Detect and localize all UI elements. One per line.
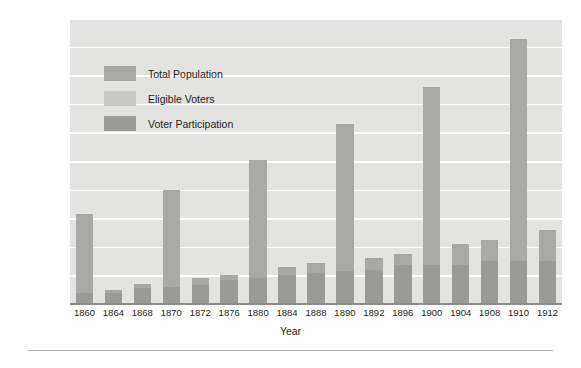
bar-1860 — [76, 214, 93, 304]
bar-1890 — [336, 124, 353, 304]
legend-label: Voter Participation — [148, 118, 233, 130]
legend-item: Voter Participation — [104, 116, 233, 131]
x-axis-line — [70, 303, 562, 305]
x-tick-label: 1888 — [305, 307, 326, 318]
bar-segment-total-population — [249, 160, 266, 279]
bar-1876 — [220, 275, 237, 304]
x-tick-label: 1896 — [392, 307, 413, 318]
bar-1908 — [481, 240, 498, 304]
bar-1892 — [365, 258, 382, 304]
bar-segment-total-population — [365, 258, 382, 269]
bar-segment-voter-participation — [163, 287, 180, 304]
gridline — [70, 47, 562, 49]
bar-segment-total-population — [423, 87, 440, 266]
x-tick-label: 1870 — [161, 307, 182, 318]
plot-area: Total Population Eligible Voters Voter P… — [70, 18, 562, 304]
x-axis-title: Year — [0, 325, 581, 337]
gridline — [70, 161, 562, 163]
bar-segment-voter-participation — [192, 285, 209, 304]
bar-segment-voter-participation — [452, 265, 469, 304]
bar-1904 — [452, 244, 469, 304]
x-tick-label: 1880 — [248, 307, 269, 318]
bar-1912 — [539, 230, 556, 304]
bar-segment-voter-participation — [336, 271, 353, 304]
bar-segment-voter-participation — [365, 270, 382, 304]
bar-1872 — [192, 278, 209, 304]
bar-1900 — [423, 87, 440, 304]
x-tick-label: 1910 — [508, 307, 529, 318]
bar-segment-voter-participation — [278, 275, 295, 304]
bar-segment-total-population — [278, 267, 295, 276]
bar-1870 — [163, 190, 180, 304]
bar-segment-voter-participation — [307, 273, 324, 304]
bar-1880 — [249, 160, 266, 304]
x-tick-label: 1904 — [450, 307, 471, 318]
bar-segment-total-population — [481, 240, 498, 261]
chart-legend: Total Population Eligible Voters Voter P… — [104, 66, 233, 141]
x-tick-label: 1900 — [421, 307, 442, 318]
x-tick-label: 1868 — [132, 307, 153, 318]
bar-1868 — [134, 284, 151, 304]
voter-participation-chart: Number of People (Millions) Total Popula… — [0, 0, 581, 368]
bar-segment-total-population — [76, 214, 93, 293]
x-tick-label: 1876 — [219, 307, 240, 318]
bar-1888 — [307, 263, 324, 304]
legend-swatch-total-population — [104, 66, 136, 81]
bar-segment-voter-participation — [510, 261, 527, 304]
gridline — [70, 190, 562, 192]
x-tick-label: 1892 — [363, 307, 384, 318]
bar-segment-total-population — [336, 124, 353, 271]
bar-segment-voter-participation — [423, 265, 440, 304]
bar-1864 — [105, 290, 122, 304]
x-tick-label: 1864 — [103, 307, 124, 318]
x-tick-label: 1912 — [537, 307, 558, 318]
legend-label: Eligible Voters — [148, 93, 215, 105]
legend-item: Eligible Voters — [104, 91, 233, 106]
bar-segment-total-population — [307, 263, 324, 273]
footer-rule — [28, 350, 553, 351]
gridline — [70, 218, 562, 220]
bar-segment-voter-participation — [134, 288, 151, 304]
bar-segment-voter-participation — [539, 261, 556, 304]
bar-segment-voter-participation — [220, 280, 237, 304]
gridline — [70, 18, 562, 20]
x-tick-label: 1884 — [276, 307, 297, 318]
legend-swatch-voter-participation — [104, 116, 136, 131]
x-tick-label: 1890 — [334, 307, 355, 318]
x-tick-label: 1872 — [190, 307, 211, 318]
bar-segment-total-population — [163, 190, 180, 287]
bar-1896 — [394, 254, 411, 304]
bar-segment-total-population — [452, 244, 469, 265]
bar-segment-voter-participation — [481, 261, 498, 304]
bar-1884 — [278, 267, 295, 304]
bar-segment-total-population — [394, 254, 411, 265]
bar-segment-total-population — [192, 278, 209, 285]
bar-1910 — [510, 39, 527, 304]
legend-label: Total Population — [148, 68, 223, 80]
x-tick-label: 1860 — [74, 307, 95, 318]
legend-item: Total Population — [104, 66, 233, 81]
legend-swatch-eligible-voters — [104, 91, 136, 106]
bar-segment-total-population — [510, 39, 527, 261]
bar-segment-voter-participation — [249, 278, 266, 304]
bar-segment-voter-participation — [394, 265, 411, 304]
x-tick-label: 1908 — [479, 307, 500, 318]
bar-segment-total-population — [539, 230, 556, 261]
